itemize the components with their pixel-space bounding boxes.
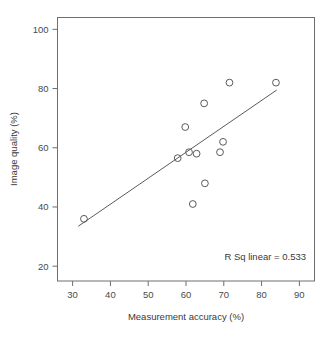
- regression-line: [78, 90, 276, 226]
- data-point-marker: [220, 138, 227, 145]
- data-point-marker: [273, 79, 280, 86]
- plot-svg: 20406080100 30405060708090 Image quality…: [0, 0, 336, 339]
- x-tick-label: 50: [143, 289, 154, 300]
- fit-line: [78, 90, 276, 226]
- y-tick-label: 20: [38, 261, 49, 272]
- x-axis-ticks: 30405060708090: [67, 281, 304, 300]
- y-tick-label: 40: [38, 201, 49, 212]
- data-point-marker: [226, 79, 233, 86]
- data-point-marker: [193, 150, 200, 157]
- scatter-plot-figure: 20406080100 30405060708090 Image quality…: [0, 0, 336, 339]
- data-point-marker: [189, 201, 196, 208]
- data-points: [81, 79, 280, 222]
- x-axis-title: Measurement accuracy (%): [128, 311, 244, 322]
- x-tick-label: 70: [219, 289, 230, 300]
- x-tick-label: 30: [67, 289, 78, 300]
- data-point-marker: [217, 149, 224, 156]
- y-axis-title: Image quality (%): [8, 112, 19, 186]
- y-tick-label: 60: [38, 142, 49, 153]
- x-tick-label: 40: [105, 289, 116, 300]
- data-point-marker: [201, 100, 208, 107]
- data-point-marker: [201, 180, 208, 187]
- plot-frame: [58, 18, 315, 282]
- r-squared-annotation: R Sq linear = 0.533: [224, 251, 306, 262]
- y-tick-label: 80: [38, 83, 49, 94]
- x-tick-label: 90: [294, 289, 305, 300]
- y-tick-label: 100: [33, 24, 49, 35]
- x-tick-label: 80: [256, 289, 267, 300]
- x-tick-label: 60: [181, 289, 192, 300]
- data-point-marker: [182, 124, 189, 131]
- data-point-marker: [81, 215, 88, 222]
- y-axis-ticks: 20406080100: [33, 24, 58, 272]
